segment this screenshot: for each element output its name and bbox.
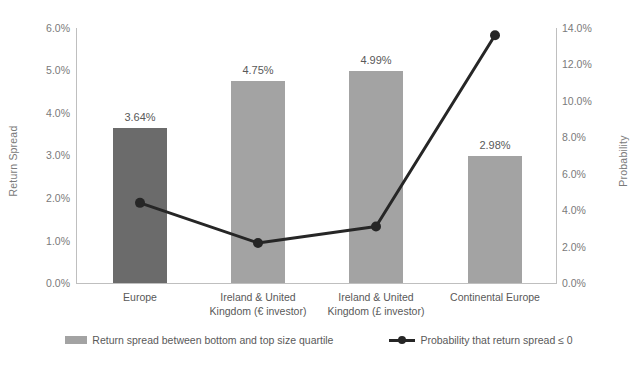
- chart-legend: Return spread between bottom and top siz…: [0, 334, 638, 346]
- y-axis-right-tick: 8.0%: [562, 132, 608, 143]
- y-axis-right-ticks: 14.0% 12.0% 10.0% 8.0% 6.0% 4.0% 2.0% 0.…: [562, 0, 608, 368]
- y-axis-right-title: Probability: [617, 111, 629, 211]
- y-axis-left-title: Return Spread: [7, 111, 19, 211]
- chart-container: Return Spread Probability 6.0% 5.0% 4.0%…: [0, 0, 638, 368]
- legend-label: Return spread between bottom and top siz…: [92, 334, 333, 346]
- bar: [468, 156, 522, 283]
- bar-value-label: 3.64%: [100, 111, 180, 123]
- y-axis-left-tick: 3.0%: [24, 150, 70, 161]
- y-axis-right-tick: 12.0%: [562, 59, 608, 70]
- bar-swatch-icon: [65, 336, 87, 344]
- y-axis-right-tick: 2.0%: [562, 242, 608, 253]
- y-axis-left-tick: 4.0%: [24, 108, 70, 119]
- legend-item-bar[interactable]: Return spread between bottom and top siz…: [65, 334, 333, 346]
- legend-item-line[interactable]: Probability that return spread ≤ 0: [389, 334, 572, 346]
- x-axis-line: [76, 283, 557, 284]
- x-axis-category-label: Continental Europe: [433, 290, 557, 304]
- bar-value-label: 4.75%: [218, 64, 298, 76]
- bar: [113, 128, 167, 283]
- y-axis-left-tick: 2.0%: [24, 193, 70, 204]
- x-axis-category-label: Ireland & United Kingdom (€ investor): [196, 290, 320, 318]
- y-axis-left-tick: 0.0%: [24, 278, 70, 289]
- line-data-point: [490, 30, 500, 40]
- legend-label: Probability that return spread ≤ 0: [420, 334, 572, 346]
- line-marker-icon: [389, 335, 415, 345]
- y-axis-right-tick: 0.0%: [562, 278, 608, 289]
- x-axis-category-label: Ireland & United Kingdom (£ investor): [314, 290, 438, 318]
- y-axis-right-tick: 10.0%: [562, 96, 608, 107]
- y-axis-right-tick: 4.0%: [562, 205, 608, 216]
- x-axis-category-label: Europe: [78, 290, 202, 304]
- y-axis-right-line: [556, 28, 557, 284]
- line-path: [140, 35, 495, 243]
- y-axis-right-tick: 6.0%: [562, 169, 608, 180]
- bar-value-label: 4.99%: [336, 54, 416, 66]
- bar: [231, 81, 285, 283]
- y-axis-left-ticks: 6.0% 5.0% 4.0% 3.0% 2.0% 1.0% 0.0%: [24, 0, 70, 368]
- bar-value-label: 2.98%: [455, 139, 535, 151]
- y-axis-left-tick: 5.0%: [24, 65, 70, 76]
- y-axis-left-tick: 1.0%: [24, 236, 70, 247]
- y-axis-right-tick: 14.0%: [562, 23, 608, 34]
- y-axis-left-tick: 6.0%: [24, 23, 70, 34]
- y-axis-left-line: [76, 28, 77, 284]
- bar: [349, 71, 403, 283]
